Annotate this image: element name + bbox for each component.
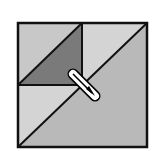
quilt-block-diagram — [0, 0, 160, 151]
